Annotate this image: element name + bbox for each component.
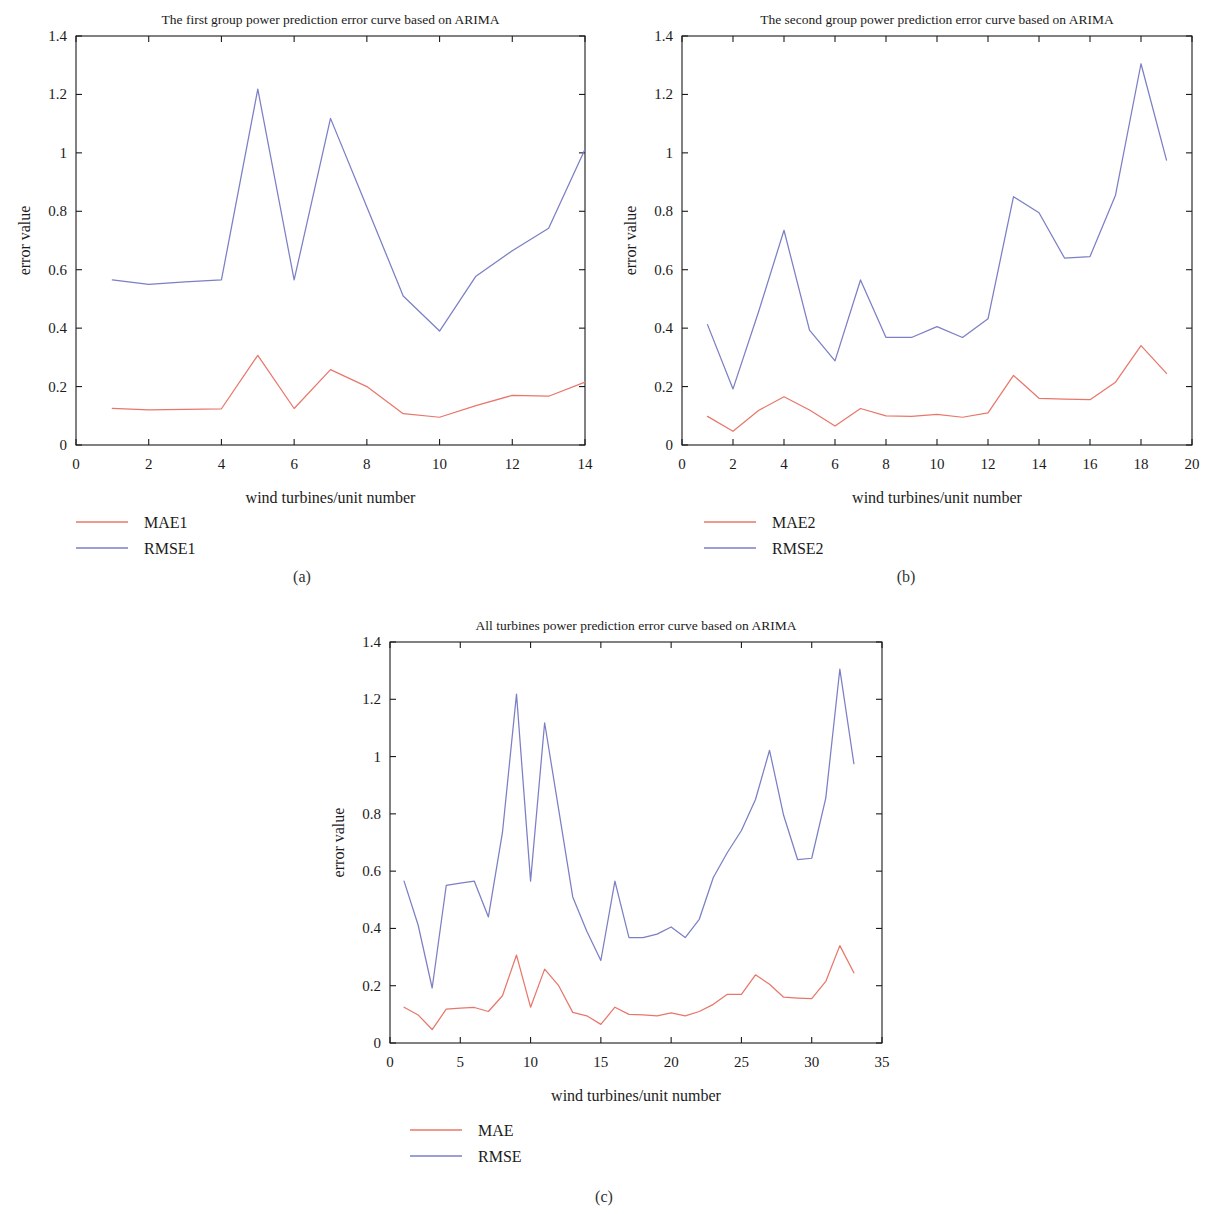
y-tick-label: 1.2 — [362, 691, 381, 707]
x-tick-label: 16 — [1083, 456, 1099, 472]
legend-label-rmse2: RMSE2 — [772, 540, 824, 557]
y-axis-title: error value — [622, 206, 639, 276]
series-line-mae1 — [112, 355, 585, 417]
y-tick-label: 1 — [60, 145, 68, 161]
series-line-mae — [404, 946, 854, 1030]
figure-root: The first group power prediction error c… — [0, 0, 1208, 1214]
legend-label-mae2: MAE2 — [772, 514, 816, 531]
x-tick-label: 10 — [432, 456, 447, 472]
x-tick-label: 30 — [804, 1054, 819, 1070]
chart-title-line: The second group power prediction error … — [760, 12, 1114, 27]
y-tick-label: 1.2 — [654, 86, 673, 102]
y-tick-label: 0.2 — [362, 978, 381, 994]
x-tick-label: 20 — [664, 1054, 679, 1070]
y-tick-label: 1.4 — [48, 28, 67, 44]
y-tick-label: 0.4 — [362, 920, 381, 936]
x-tick-label: 2 — [145, 456, 153, 472]
chart-panel-c: All turbines power prediction error curv… — [302, 600, 906, 1214]
legend-label-mae1: MAE1 — [144, 514, 188, 531]
y-axis-title: error value — [330, 808, 347, 878]
y-axis-title: error value — [16, 206, 33, 276]
y-tick-label: 0.8 — [654, 203, 673, 219]
x-axis-title: wind turbines/unit number — [551, 1087, 721, 1104]
x-tick-label: 12 — [505, 456, 520, 472]
y-tick-label: 0.4 — [48, 320, 67, 336]
x-tick-label: 6 — [831, 456, 839, 472]
y-tick-label: 1 — [374, 749, 382, 765]
x-tick-label: 15 — [593, 1054, 608, 1070]
x-tick-label: 0 — [72, 456, 80, 472]
y-tick-label: 0.6 — [654, 262, 673, 278]
x-tick-label: 12 — [981, 456, 996, 472]
y-tick-label: 1.4 — [362, 634, 381, 650]
series-line-rmse2 — [708, 64, 1167, 389]
y-tick-label: 0 — [666, 437, 674, 453]
y-tick-label: 0 — [60, 437, 68, 453]
y-tick-label: 0.2 — [654, 379, 673, 395]
y-tick-label: 1.4 — [654, 28, 673, 44]
x-axis-title: wind turbines/unit number — [852, 489, 1022, 506]
x-tick-label: 2 — [729, 456, 737, 472]
series-line-mae2 — [708, 346, 1167, 432]
x-tick-label: 4 — [218, 456, 226, 472]
x-tick-label: 10 — [523, 1054, 538, 1070]
plot-frame — [76, 36, 585, 445]
chart-title-line: All turbines power prediction error curv… — [476, 618, 797, 633]
legend-label-rmse: RMSE — [478, 1148, 522, 1165]
x-tick-label: 35 — [875, 1054, 890, 1070]
x-tick-label: 20 — [1185, 456, 1200, 472]
y-tick-label: 1.2 — [48, 86, 67, 102]
y-tick-label: 0.2 — [48, 379, 67, 395]
x-tick-label: 8 — [363, 456, 371, 472]
x-tick-label: 25 — [734, 1054, 749, 1070]
chart-panel-a: The first group power prediction error c… — [0, 0, 604, 600]
panel-caption-c: (c) — [302, 1188, 906, 1206]
x-tick-label: 0 — [386, 1054, 394, 1070]
y-tick-label: 0.6 — [48, 262, 67, 278]
x-axis-title: wind turbines/unit number — [246, 489, 416, 506]
x-tick-label: 10 — [930, 456, 945, 472]
x-tick-label: 5 — [457, 1054, 465, 1070]
y-tick-label: 0.4 — [654, 320, 673, 336]
y-tick-label: 0.8 — [362, 806, 381, 822]
legend-label-rmse1: RMSE1 — [144, 540, 196, 557]
plot-frame — [682, 36, 1192, 445]
x-tick-label: 4 — [780, 456, 788, 472]
chart-svg-c: All turbines power prediction error curv… — [302, 600, 906, 1180]
y-tick-label: 0.8 — [48, 203, 67, 219]
x-tick-label: 18 — [1134, 456, 1149, 472]
panel-caption-b: (b) — [604, 568, 1208, 586]
panel-caption-a: (a) — [0, 568, 604, 586]
x-tick-label: 0 — [678, 456, 686, 472]
x-tick-label: 8 — [882, 456, 890, 472]
x-tick-label: 14 — [578, 456, 594, 472]
legend-label-mae: MAE — [478, 1122, 514, 1139]
series-line-rmse — [404, 669, 854, 988]
chart-panel-b: The second group power prediction error … — [604, 0, 1208, 600]
y-tick-label: 1 — [666, 145, 674, 161]
chart-svg-b: The second group power prediction error … — [604, 0, 1208, 570]
x-tick-label: 6 — [290, 456, 298, 472]
series-line-rmse1 — [112, 89, 585, 331]
x-tick-label: 14 — [1032, 456, 1048, 472]
chart-svg-a: The first group power prediction error c… — [0, 0, 604, 570]
chart-title-line: The first group power prediction error c… — [162, 12, 500, 27]
y-tick-label: 0.6 — [362, 863, 381, 879]
plot-frame — [390, 642, 882, 1043]
y-tick-label: 0 — [374, 1035, 382, 1051]
